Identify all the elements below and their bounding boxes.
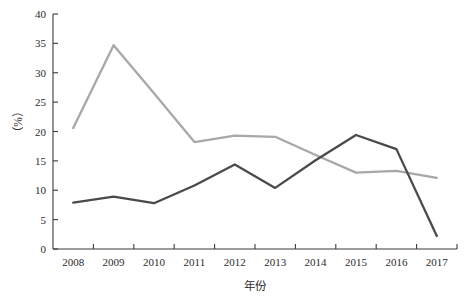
y-tick-label: 5 bbox=[41, 214, 47, 226]
x-tick-label: 2012 bbox=[224, 256, 246, 268]
x-tick-label: 2014 bbox=[305, 256, 328, 268]
x-tick-label: 2016 bbox=[385, 256, 408, 268]
x-tick-label: 2017 bbox=[426, 256, 449, 268]
x-tick-label: 2011 bbox=[184, 256, 206, 268]
y-tick-label: 20 bbox=[35, 126, 47, 138]
chart-canvas: 0510152025303540 20082009201020112012201… bbox=[0, 0, 472, 304]
x-tick-label: 2015 bbox=[345, 256, 368, 268]
line-chart-figure: 0510152025303540 20082009201020112012201… bbox=[0, 0, 472, 304]
y-tick-label: 25 bbox=[35, 96, 47, 108]
data-series bbox=[73, 45, 437, 236]
series-line-series-dark bbox=[73, 135, 437, 236]
axes bbox=[53, 14, 457, 249]
y-tick-label: 35 bbox=[35, 37, 47, 49]
series-line-series-light bbox=[73, 45, 437, 178]
y-axis-title: （%） bbox=[12, 106, 24, 138]
x-axis-ticks: 2008200920102011201220132014201520162017 bbox=[62, 244, 457, 268]
y-tick-label: 40 bbox=[35, 8, 47, 20]
x-tick-label: 2010 bbox=[143, 256, 166, 268]
y-tick-label: 10 bbox=[35, 184, 47, 196]
y-axis-ticks: 0510152025303540 bbox=[35, 8, 58, 255]
y-tick-label: 0 bbox=[41, 243, 47, 255]
x-axis-title: 年份 bbox=[244, 279, 267, 292]
y-tick-label: 30 bbox=[35, 67, 47, 79]
x-tick-label: 2008 bbox=[62, 256, 85, 268]
x-tick-label: 2009 bbox=[103, 256, 126, 268]
y-tick-label: 15 bbox=[35, 155, 47, 167]
x-tick-label: 2013 bbox=[264, 256, 287, 268]
